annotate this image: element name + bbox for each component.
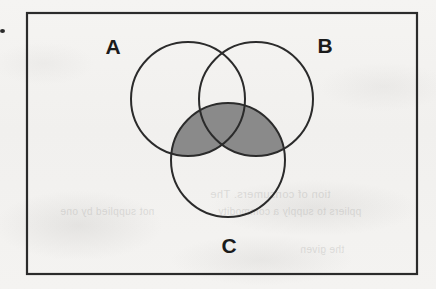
set-label-a: A <box>99 36 127 57</box>
venn-diagram-figure: tion of consumers. The ppliers to supply… <box>0 0 436 289</box>
set-label-c: C <box>215 235 243 256</box>
set-label-b: B <box>311 35 339 56</box>
